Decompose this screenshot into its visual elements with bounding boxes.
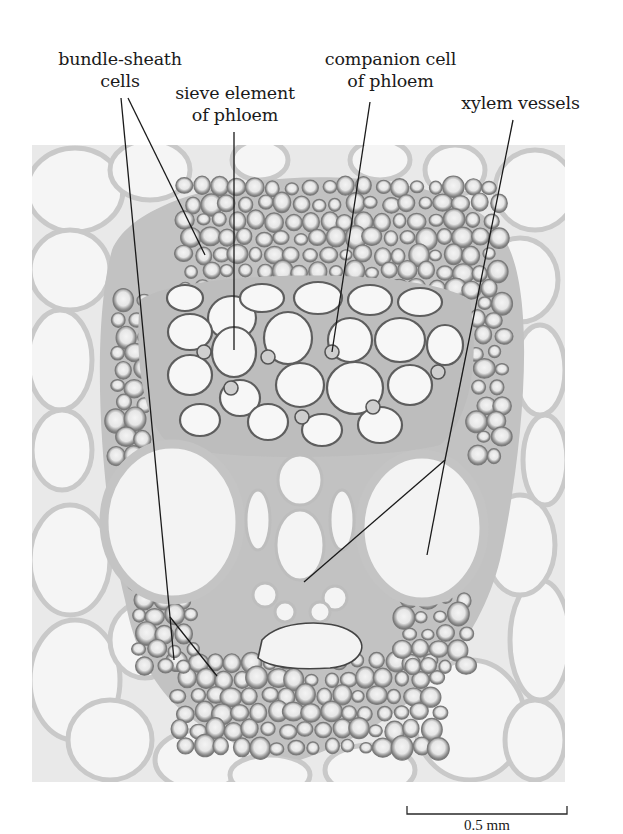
label-line: of phloem	[160, 104, 310, 126]
scale-bar	[407, 806, 567, 814]
scale-bar-label: 0.5 mm	[447, 817, 527, 834]
micrograph-tissue	[27, 140, 575, 795]
label-line: sieve element	[160, 82, 310, 104]
scale-bar-line	[407, 806, 567, 814]
label-line: xylem vessels	[448, 92, 593, 114]
label-line: companion cell	[308, 48, 473, 70]
figure: bundle-sheath cells sieve element of phl…	[0, 0, 623, 834]
micrograph	[0, 0, 623, 834]
label-companion-cell-of-phloem: companion cell of phloem	[308, 48, 473, 92]
label-line: of phloem	[308, 70, 473, 92]
label-line: bundle-sheath	[40, 48, 200, 70]
label-xylem-vessels: xylem vessels	[448, 92, 593, 114]
label-sieve-element-of-phloem: sieve element of phloem	[160, 82, 310, 126]
xylem-vessel-left	[104, 444, 240, 600]
xylem-vessel-right	[360, 454, 484, 602]
